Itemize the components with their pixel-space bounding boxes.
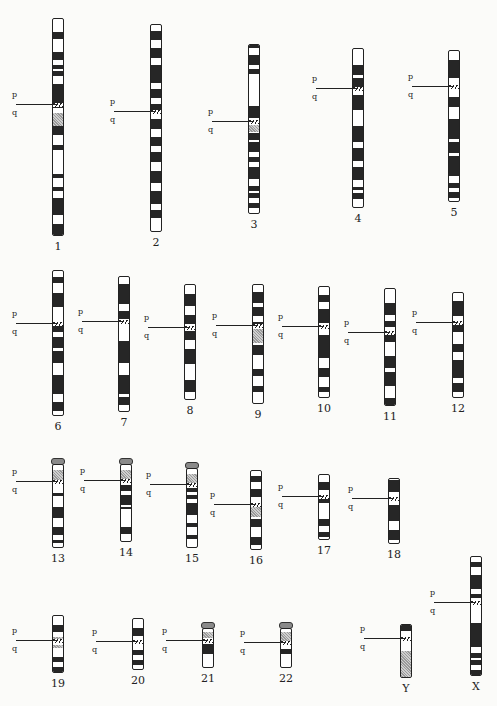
- centromere-line: [412, 86, 452, 87]
- dark-band: [385, 321, 395, 327]
- dark-band: [471, 594, 481, 598]
- chromosome-bar: [384, 288, 396, 406]
- dark-band: [353, 78, 363, 88]
- p-arm-label: p: [212, 311, 217, 320]
- dark-band: [253, 307, 263, 317]
- heterochromatin-band: [401, 651, 411, 678]
- dark-band: [53, 657, 63, 662]
- chromosome-bar: [184, 284, 196, 400]
- dark-band: [319, 387, 329, 393]
- dark-band: [53, 71, 63, 75]
- dark-band: [185, 315, 195, 324]
- dark-band: [389, 480, 399, 492]
- chromosome-number: 22: [271, 672, 301, 685]
- dark-band: [449, 156, 459, 176]
- q-arm-label: q: [144, 331, 149, 340]
- chromosome-bar: [388, 478, 400, 544]
- centromere-line: [352, 498, 392, 499]
- chromosome-number: 10: [309, 402, 339, 415]
- chromosome-number: 12: [443, 402, 473, 415]
- centromere-line: [244, 642, 284, 643]
- centromere-line: [96, 641, 136, 642]
- centromere-line: [16, 481, 56, 482]
- dark-band: [449, 142, 459, 153]
- dark-band: [471, 575, 481, 589]
- centromere-line: [84, 480, 124, 481]
- q-arm-label: q: [146, 488, 151, 497]
- centromere-line: [82, 321, 122, 322]
- dark-band: [53, 337, 63, 349]
- dark-band: [249, 193, 259, 198]
- dark-band: [385, 303, 395, 315]
- dark-band: [53, 32, 63, 39]
- q-arm-label: q: [430, 606, 435, 615]
- dark-band: [151, 89, 161, 97]
- dark-band: [453, 360, 463, 378]
- dark-band: [185, 380, 195, 392]
- dark-band: [353, 95, 363, 109]
- dark-band: [453, 344, 463, 352]
- dark-band: [187, 535, 197, 540]
- chromosome-number: 6: [43, 420, 73, 433]
- dark-band: [319, 532, 329, 537]
- centromere-line: [16, 323, 56, 324]
- chromosome-number: 5: [439, 206, 469, 219]
- dark-band: [53, 351, 63, 363]
- dark-band: [251, 476, 261, 482]
- dark-band: [249, 167, 259, 179]
- chromosome-number: 1: [43, 240, 73, 253]
- heterochromatin-band: [249, 125, 259, 132]
- p-arm-label: p: [278, 312, 283, 321]
- chromosome-number: 8: [175, 404, 205, 417]
- dark-band: [185, 349, 195, 364]
- dark-band: [281, 649, 291, 654]
- dark-band: [151, 191, 161, 203]
- chromosome-bar: [280, 628, 292, 668]
- karyotype-diagram: pq36 -35 -34 -33 -32 -31 -22 -21 -13 -11…: [0, 0, 497, 706]
- p-arm-label: p: [344, 318, 349, 327]
- dark-band: [249, 106, 259, 118]
- dark-band: [449, 192, 459, 198]
- q-arm-label: q: [348, 502, 353, 511]
- dark-band: [151, 31, 161, 39]
- centromere-line: [316, 88, 356, 89]
- centromere-line: [282, 326, 322, 327]
- dark-band: [53, 52, 63, 61]
- p-arm-label: p: [146, 470, 151, 479]
- chromosome-number: 21: [193, 672, 223, 685]
- chromosome-bar: [52, 270, 64, 416]
- dark-band: [249, 186, 259, 191]
- p-arm-label: p: [210, 490, 215, 499]
- dark-band: [121, 527, 131, 534]
- dark-band: [353, 126, 363, 142]
- heterochromatin-band: [203, 632, 213, 638]
- dark-band: [53, 224, 63, 235]
- dark-band: [185, 294, 195, 306]
- chromosome-number: 15: [177, 552, 207, 565]
- dark-band: [249, 69, 259, 74]
- dark-band: [449, 60, 459, 78]
- p-arm-label: p: [240, 628, 245, 637]
- dark-band: [389, 530, 399, 539]
- q-arm-label: q: [212, 329, 217, 338]
- centromere-line: [150, 484, 190, 485]
- chromosome-number: 7: [109, 416, 139, 429]
- dark-band: [253, 386, 263, 392]
- p-arm-label: p: [12, 309, 17, 318]
- chromosome-number: 3: [239, 218, 269, 231]
- chromosome-number: 20: [123, 674, 153, 687]
- dark-band: [187, 488, 197, 492]
- p-arm-label: p: [92, 627, 97, 636]
- dark-band: [133, 660, 143, 665]
- centromere-line: [212, 121, 252, 122]
- chromosome-number: 16: [241, 554, 271, 567]
- chromosome-bar: [352, 48, 364, 208]
- p-arm-label: p: [348, 484, 353, 493]
- dark-band: [151, 171, 161, 183]
- p-arm-label: p: [360, 624, 365, 633]
- dark-band: [53, 145, 63, 149]
- p-arm-label: p: [12, 626, 17, 635]
- centromere-line: [282, 496, 322, 497]
- dark-band: [319, 519, 329, 527]
- chromosome-number: X: [461, 680, 491, 693]
